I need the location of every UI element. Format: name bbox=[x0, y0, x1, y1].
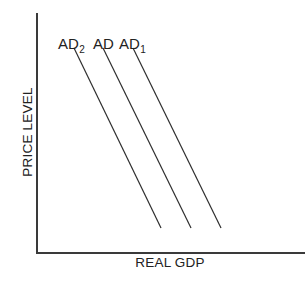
label-ad1: AD1 bbox=[119, 35, 146, 55]
aggregate-demand-diagram: AD2ADAD1 PRICE LEVEL REAL GDP bbox=[0, 0, 305, 285]
label-main: AD bbox=[58, 35, 79, 52]
label-subscript: 1 bbox=[140, 44, 146, 55]
curve-ad bbox=[103, 48, 191, 228]
curve-ad1 bbox=[133, 48, 221, 228]
x-axis-label: REAL GDP bbox=[135, 255, 204, 270]
label-ad: AD bbox=[93, 35, 114, 52]
label-subscript: 2 bbox=[79, 44, 85, 55]
label-main: AD bbox=[119, 35, 140, 52]
ad-curve-labels: AD2ADAD1 bbox=[58, 35, 146, 55]
ad-curves bbox=[74, 48, 221, 228]
label-main: AD bbox=[93, 35, 114, 52]
y-axis-label: PRICE LEVEL bbox=[20, 87, 35, 177]
label-ad2: AD2 bbox=[58, 35, 85, 55]
curve-ad2 bbox=[74, 48, 161, 228]
